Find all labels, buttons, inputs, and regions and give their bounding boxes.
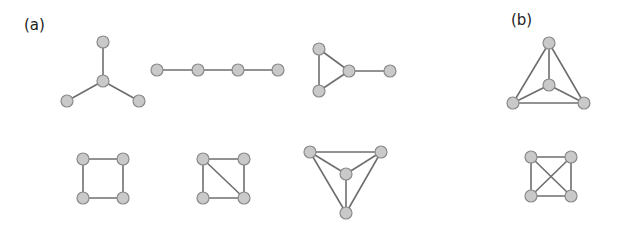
graph-node — [525, 190, 537, 202]
graph-edge — [203, 159, 244, 198]
graphs-drawing — [0, 0, 618, 228]
graph-node — [340, 168, 352, 180]
graph-node — [117, 153, 129, 165]
graph-node — [304, 146, 316, 158]
graph-node — [197, 192, 209, 204]
diamond-graph — [197, 153, 250, 204]
graph-node — [197, 153, 209, 165]
graph-edge — [346, 152, 381, 213]
paw-graph — [313, 43, 396, 97]
graph-node — [133, 95, 145, 107]
graph-node — [543, 79, 555, 91]
graph-node — [232, 64, 244, 76]
graph-node — [543, 37, 555, 49]
k4-graph-b — [507, 37, 590, 109]
graph-node — [61, 95, 73, 107]
graph-node — [343, 65, 355, 77]
graph-node — [313, 43, 325, 55]
k4-square-graph — [525, 151, 577, 202]
graph-node — [507, 97, 519, 109]
path-graph — [151, 64, 284, 76]
graph-node — [97, 36, 109, 48]
cycle-graph — [77, 153, 129, 204]
graph-node — [340, 207, 352, 219]
graph-node — [384, 65, 396, 77]
graph-node — [192, 64, 204, 76]
graph-node — [151, 64, 163, 76]
graph-node — [238, 192, 250, 204]
graph-node — [565, 151, 577, 163]
star-graph — [61, 36, 145, 107]
graph-node — [97, 75, 109, 87]
graph-node — [313, 85, 325, 97]
graph-node — [525, 151, 537, 163]
graph-node — [565, 190, 577, 202]
graph-node — [77, 153, 89, 165]
graph-node — [272, 64, 284, 76]
graph-figure: (a) (b) — [0, 0, 618, 228]
graph-node — [117, 192, 129, 204]
graph-node — [375, 146, 387, 158]
k4-triangle-graph — [304, 146, 387, 219]
graph-node — [238, 153, 250, 165]
graph-node — [77, 192, 89, 204]
graph-edge — [310, 152, 346, 213]
graph-node — [578, 97, 590, 109]
